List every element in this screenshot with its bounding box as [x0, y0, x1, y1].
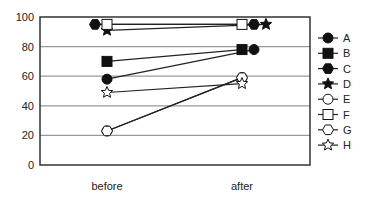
- open-star-marker-icon: [101, 87, 112, 98]
- filled-square-marker-icon: [102, 56, 112, 66]
- y-axis-ticks: 020406080100: [16, 11, 34, 171]
- legend-item-e: E: [318, 93, 350, 105]
- legend-label: D: [343, 78, 351, 90]
- open-square-marker-icon: [237, 19, 247, 29]
- y-tick-label: 80: [22, 41, 34, 53]
- legend-item-b: B: [318, 47, 350, 59]
- open-hexagon-marker-icon: [102, 126, 113, 136]
- legend-item-h: H: [318, 139, 351, 151]
- legend-label: G: [343, 124, 352, 136]
- y-tick-label: 20: [22, 129, 34, 141]
- legend-item-c: C: [318, 63, 351, 75]
- series-line-h: [107, 84, 242, 93]
- series-line-a: [107, 50, 254, 80]
- legend-item-a: A: [318, 32, 351, 44]
- legend: ABCDEFGH: [318, 32, 352, 151]
- x-tick-label: after: [231, 180, 253, 192]
- legend-label: E: [343, 93, 350, 105]
- filled-star-icon: [322, 78, 333, 89]
- open-hexagon-icon: [323, 125, 334, 135]
- open-square-icon: [323, 110, 333, 120]
- line-chart: 020406080100 beforeafter ABCDEFGH: [0, 0, 366, 201]
- legend-label: C: [343, 63, 351, 75]
- open-star-icon: [322, 139, 333, 150]
- filled-circle-marker-icon: [249, 45, 259, 55]
- filled-circle-marker-icon: [102, 74, 112, 84]
- series-line-g: [107, 78, 242, 131]
- legend-label: B: [343, 47, 350, 59]
- legend-label: A: [343, 32, 351, 44]
- plot-area-border: [40, 17, 310, 165]
- x-axis-ticks: beforeafter: [91, 180, 253, 192]
- legend-label: F: [343, 109, 350, 121]
- filled-star-marker-icon: [260, 18, 271, 29]
- open-square-marker-icon: [102, 19, 112, 29]
- gridlines: [40, 47, 310, 136]
- filled-hexagon-marker-icon: [249, 20, 260, 30]
- filled-hexagon-marker-icon: [90, 20, 101, 30]
- filled-square-icon: [323, 48, 333, 58]
- legend-item-d: D: [318, 78, 351, 90]
- filled-hexagon-icon: [323, 64, 334, 74]
- y-tick-label: 40: [22, 100, 34, 112]
- y-tick-label: 100: [16, 11, 34, 23]
- y-tick-label: 0: [28, 159, 34, 171]
- legend-item-g: G: [318, 124, 352, 136]
- filled-circle-icon: [323, 33, 333, 43]
- filled-square-marker-icon: [237, 45, 247, 55]
- legend-item-f: F: [318, 109, 350, 121]
- legend-label: H: [343, 139, 351, 151]
- x-tick-label: before: [91, 180, 122, 192]
- open-circle-icon: [323, 94, 333, 104]
- y-tick-label: 60: [22, 70, 34, 82]
